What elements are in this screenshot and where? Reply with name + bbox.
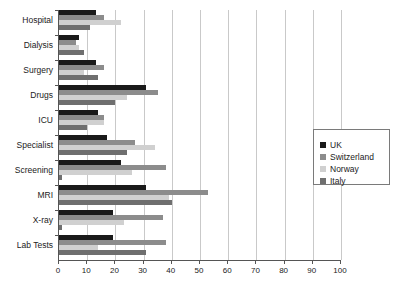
bar-norway-screening	[59, 170, 132, 175]
x-axis-tick	[114, 260, 115, 264]
chart-legend: UKSwitzerlandNorwayItaly	[313, 129, 390, 185]
category-label-screening: Screening	[15, 165, 53, 175]
x-axis-tick	[199, 260, 200, 264]
bar-italy-screening	[59, 175, 62, 180]
x-axis-tick	[340, 260, 341, 264]
legend-item-norway[interactable]: Norway	[320, 159, 359, 171]
legend-label: Italy	[330, 176, 346, 186]
bar-italy-x-ray	[59, 225, 62, 230]
category-label-x-ray: X-ray	[33, 215, 53, 225]
legend-item-switzerland[interactable]: Switzerland	[320, 147, 374, 159]
bar-group: Screening	[59, 160, 341, 185]
chart-screenshot: HospitalDialysisSurgeryDrugsICUSpecialis…	[0, 0, 395, 284]
x-axis-tick	[255, 260, 256, 264]
bar-italy-lab-tests	[59, 250, 146, 255]
bar-italy-mri	[59, 200, 172, 205]
bar-group: Surgery	[59, 60, 341, 85]
category-label-mri: MRI	[37, 190, 53, 200]
bar-group: ICU	[59, 110, 341, 135]
bar-italy-surgery	[59, 75, 98, 80]
bar-italy-hospital	[59, 25, 90, 30]
x-axis-tick	[312, 260, 313, 264]
legend-swatch-icon	[320, 178, 326, 184]
category-label-lab-tests: Lab Tests	[17, 240, 53, 250]
bar-italy-specialist	[59, 150, 127, 155]
x-axis-tick	[227, 260, 228, 264]
plot-area: HospitalDialysisSurgeryDrugsICUSpecialis…	[58, 10, 341, 260]
bar-group: X-ray	[59, 210, 341, 235]
bar-group: MRI	[59, 185, 341, 210]
category-label-icu: ICU	[38, 115, 53, 125]
category-label-hospital: Hospital	[22, 15, 53, 25]
category-label-surgery: Surgery	[23, 65, 53, 75]
bar-group: Lab Tests	[59, 235, 341, 260]
x-axis-tick-label: 100	[320, 266, 360, 276]
x-axis-tick	[143, 260, 144, 264]
category-label-drugs: Drugs	[30, 90, 53, 100]
legend-item-italy[interactable]: Italy	[320, 171, 346, 183]
bar-italy-icu	[59, 125, 87, 130]
bar-group: Dialysis	[59, 35, 341, 60]
bar-italy-dialysis	[59, 50, 84, 55]
category-label-specialist: Specialist	[17, 140, 53, 150]
x-axis-tick	[284, 260, 285, 264]
x-axis-tick	[58, 260, 59, 264]
category-label-dialysis: Dialysis	[24, 40, 53, 50]
x-axis-tick	[171, 260, 172, 264]
bar-group: Specialist	[59, 135, 341, 160]
legend-item-uk[interactable]: UK	[320, 135, 342, 147]
bar-group: Hospital	[59, 10, 341, 35]
bar-group: Drugs	[59, 85, 341, 110]
x-axis-tick	[86, 260, 87, 264]
bar-norway-x-ray	[59, 220, 124, 225]
bar-italy-drugs	[59, 100, 115, 105]
